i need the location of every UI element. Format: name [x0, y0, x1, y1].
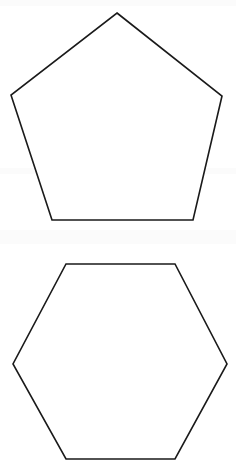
hexagon-shape [13, 264, 227, 459]
shapes-drawing [0, 0, 236, 463]
shapes-canvas [0, 0, 236, 463]
pentagon-shape [11, 13, 222, 220]
